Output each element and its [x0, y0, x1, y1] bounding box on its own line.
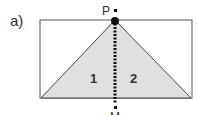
region-1-label: 1 [90, 71, 97, 86]
point-p-marker [111, 17, 119, 25]
region-2-label: 2 [130, 71, 137, 86]
axis-dot-bottom [114, 106, 117, 109]
point-p-label: P [102, 4, 110, 18]
point-m-label: M [110, 110, 120, 115]
diagram-canvas: P 1 2 M [0, 0, 197, 115]
axis-dot-top [114, 9, 117, 12]
